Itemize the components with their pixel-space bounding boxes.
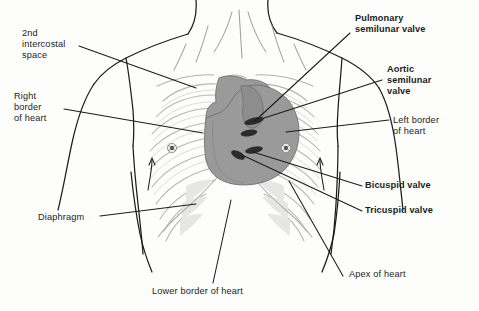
- leader-diaphragm: [100, 204, 196, 216]
- label-line: semilunar: [387, 75, 431, 85]
- label-lower-border-of-heart: Lower border of heart: [152, 286, 243, 297]
- label-line: border: [14, 102, 41, 112]
- label-second-intercostal-space: 2ndintercostalspace: [22, 28, 66, 62]
- label-line: of heart: [393, 126, 425, 136]
- label-line: 2nd: [22, 28, 38, 38]
- chest-anatomy-illustration: [0, 0, 479, 311]
- shoulder-right-line: [277, 33, 379, 88]
- label-line: of heart: [14, 113, 46, 123]
- arm-left-outer-contour: [58, 84, 94, 210]
- label-tricuspid-valve: Tricuspid valve: [365, 205, 433, 216]
- leader-lower-border-of-heart: [213, 200, 231, 283]
- nipple-right-marker: [167, 143, 176, 152]
- label-line: Lower border of heart: [152, 286, 243, 296]
- anatomical-figure-page: 2ndintercostalspace Rightborderof heart …: [0, 0, 479, 311]
- shoulder-left-line: [94, 34, 188, 84]
- nipple-left-marker: [281, 143, 290, 152]
- label-diaphragm: Diaphragm: [38, 212, 84, 223]
- label-line: Pulmonary: [355, 13, 403, 23]
- label-line: Left border: [393, 115, 439, 125]
- label-line: Apex of heart: [349, 269, 406, 279]
- heart-silhouette-group: [205, 76, 300, 185]
- label-line: semilunar valve: [355, 24, 425, 34]
- diaphragm-arrow: [148, 160, 152, 190]
- label-line: Diaphragm: [38, 212, 84, 222]
- torso-right-side: [331, 146, 338, 254]
- label-bicuspid-valve: Bicuspid valve: [365, 180, 431, 191]
- armpit-left-line: [126, 58, 134, 146]
- label-line: valve: [387, 86, 411, 96]
- upper-chest-lines: [174, 10, 306, 70]
- label-line: Bicuspid valve: [365, 180, 431, 190]
- label-line: intercostal: [22, 39, 66, 49]
- label-line: Aortic: [387, 64, 414, 74]
- neck-left-line: [188, 0, 196, 34]
- label-line: Right: [14, 91, 36, 101]
- arm-right-outer-contour: [379, 88, 403, 210]
- label-apex-of-heart: Apex of heart: [349, 269, 406, 280]
- label-left-border-of-heart: Left borderof heart: [393, 115, 439, 137]
- label-line: Tricuspid valve: [365, 205, 433, 215]
- label-right-border-of-heart: Rightborderof heart: [14, 91, 46, 125]
- label-line: space: [22, 50, 47, 60]
- label-aortic-semilunar-valve: Aorticsemilunarvalve: [387, 64, 431, 98]
- label-pulmonary-semilunar-valve: Pulmonarysemilunar valve: [355, 13, 425, 35]
- lower-rib-shading: [180, 180, 290, 236]
- armpit-right-line: [337, 58, 342, 146]
- diaphragm-arrow-right: [320, 160, 324, 190]
